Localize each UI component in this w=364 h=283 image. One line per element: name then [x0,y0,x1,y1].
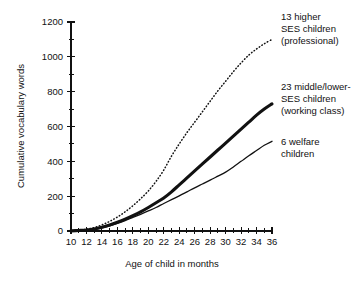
x-tick-label-14: 14 [97,236,108,247]
y-tick-label-800: 800 [47,86,63,97]
annotation-working-class-line1: 23 middle/lower- [281,81,351,92]
chart-canvas: 020040060080010001200 101214161820222426… [0,0,364,283]
y-tick-label-0: 0 [58,225,63,236]
annotation-professional-line3: (professional) [281,35,339,46]
x-tick-label-22: 22 [158,236,169,247]
series-line-professional [71,39,272,230]
x-tick-label-18: 18 [128,236,139,247]
x-tick-label-36: 36 [267,236,278,247]
x-tick-label-28: 28 [205,236,216,247]
annotation-professional-line2: SES children [281,23,336,34]
x-tick-label-12: 12 [81,236,92,247]
y-tick-label-600: 600 [47,121,63,132]
x-tick-label-34: 34 [251,236,262,247]
annotation-working-class: 23 middle/lower- SES children (working c… [281,81,351,116]
x-axis-tick-labels: 1012141618202224262830323436 [66,236,278,247]
x-tick-label-20: 20 [143,236,154,247]
x-tick-label-10: 10 [66,236,77,247]
y-tick-label-1200: 1200 [42,16,63,27]
annotation-welfare: 6 welfare children [281,136,320,159]
x-tick-label-16: 16 [112,236,123,247]
annotation-working-class-line3: (working class) [281,105,344,116]
series-line-working-class [71,104,272,231]
x-tick-label-30: 30 [220,236,231,247]
annotation-welfare-line1: 6 welfare [281,136,320,147]
annotation-welfare-line2: children [281,148,314,159]
y-axis-title: Cumulative vocabulary words [15,64,26,188]
vocabulary-growth-chart: 020040060080010001200 101214161820222426… [0,0,364,283]
x-tick-label-26: 26 [189,236,200,247]
y-tick-label-400: 400 [47,156,63,167]
y-tick-label-200: 200 [47,191,63,202]
x-tick-label-32: 32 [236,236,247,247]
annotation-working-class-line2: SES children [281,93,336,104]
annotation-professional: 13 higher SES children (professional) [281,11,339,46]
series-line-welfare [71,141,272,231]
annotation-professional-line1: 13 higher [281,11,321,22]
x-tick-label-24: 24 [174,236,185,247]
y-axis-tick-labels: 020040060080010001200 [42,16,63,236]
y-tick-label-1000: 1000 [42,51,63,62]
x-axis-title: Age of child in months [125,258,219,269]
